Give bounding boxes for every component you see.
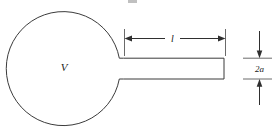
diameter-dimension: 2a [255, 31, 265, 105]
length-arrowhead-right [218, 36, 226, 42]
diameter-arrowhead-top [257, 51, 263, 59]
resonator-diagram: l 2a V [0, 0, 274, 138]
neck-outline [119, 58, 224, 79]
figure-canvas: l 2a V [0, 0, 274, 138]
neck-walls [119, 58, 224, 79]
length-dimension: l [125, 33, 226, 44]
length-extension-lines [125, 29, 226, 56]
volume-label: V [61, 61, 69, 73]
length-label: l [171, 33, 174, 44]
diameter-arrowhead-bottom [257, 79, 263, 87]
diameter-label: 2a [255, 64, 265, 74]
length-arrowhead-left [125, 36, 133, 42]
